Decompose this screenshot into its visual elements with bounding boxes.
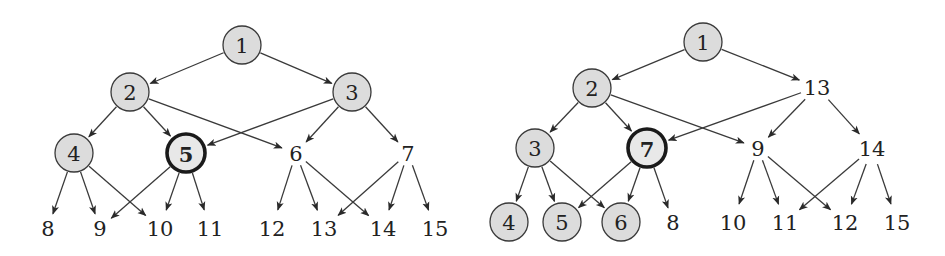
node-11: 11 xyxy=(197,217,224,241)
node-5: 5 xyxy=(167,134,205,172)
node-14: 14 xyxy=(370,217,397,241)
edge-arrow xyxy=(550,102,578,132)
node-9: 9 xyxy=(751,137,764,161)
node-13: 13 xyxy=(311,217,338,241)
node-6: 6 xyxy=(289,142,302,166)
node-label: 5 xyxy=(179,142,194,167)
node-label: 8 xyxy=(666,211,679,235)
graph-left: 123456789101112131415 xyxy=(41,26,448,241)
node-12: 12 xyxy=(832,211,859,235)
edge-arrow xyxy=(828,100,859,134)
node-2: 2 xyxy=(111,73,149,111)
node-label: 2 xyxy=(123,81,136,105)
node-14: 14 xyxy=(859,137,886,161)
node-5: 5 xyxy=(543,203,581,241)
node-13: 13 xyxy=(804,76,831,100)
node-3: 3 xyxy=(516,129,554,167)
edge-arrow xyxy=(389,165,404,210)
diagram-canvas: 123456789101112131415 121337914456810111… xyxy=(0,0,945,256)
edge-arrow xyxy=(208,99,334,145)
node-15: 15 xyxy=(422,217,449,241)
edge-arrow xyxy=(762,160,778,204)
edge-arrow xyxy=(149,99,282,148)
node-label: 1 xyxy=(696,31,709,55)
edge-arrow xyxy=(799,159,859,210)
node-11: 11 xyxy=(772,211,799,235)
edge-arrow xyxy=(612,50,684,80)
edge-arrow xyxy=(144,107,171,136)
node-label: 3 xyxy=(345,81,358,105)
node-label: 7 xyxy=(401,142,414,166)
edge-arrow xyxy=(542,167,555,202)
edge-arrow xyxy=(53,172,68,214)
edge-arrow xyxy=(192,173,204,210)
edge-arrow xyxy=(412,165,428,210)
graph-right: 121337914456810111215 xyxy=(490,23,910,241)
node-9: 9 xyxy=(93,217,106,241)
edge-arrow xyxy=(669,93,801,140)
edges xyxy=(516,49,891,209)
node-6: 6 xyxy=(602,203,640,241)
edge-arrow xyxy=(366,107,398,142)
edge-arrow xyxy=(654,168,668,208)
node-7: 7 xyxy=(401,142,414,166)
edge-arrow xyxy=(89,166,146,215)
edge-arrow xyxy=(166,173,179,210)
node-4: 4 xyxy=(55,134,93,172)
edge-arrow xyxy=(306,161,369,215)
node-7: 7 xyxy=(628,129,666,167)
node-10: 10 xyxy=(720,211,747,235)
node-label: 10 xyxy=(147,217,174,241)
edge-arrow xyxy=(877,164,890,204)
node-label: 13 xyxy=(311,217,338,241)
node-label: 14 xyxy=(859,137,886,161)
node-label: 14 xyxy=(370,217,397,241)
node-15: 15 xyxy=(884,211,911,235)
edge-arrow xyxy=(89,107,117,137)
node-12: 12 xyxy=(259,217,286,241)
node-label: 4 xyxy=(502,211,515,235)
node-label: 15 xyxy=(422,217,449,241)
edge-arrow xyxy=(550,161,604,208)
node-label: 6 xyxy=(289,142,302,166)
node-label: 12 xyxy=(832,211,859,235)
node-label: 13 xyxy=(804,76,831,100)
node-label: 1 xyxy=(235,34,248,58)
node-label: 11 xyxy=(772,211,799,235)
node-label: 2 xyxy=(585,77,598,101)
node-label: 12 xyxy=(259,217,286,241)
node-1: 1 xyxy=(223,26,261,64)
edge-arrow xyxy=(852,164,867,204)
edge-arrow xyxy=(768,99,805,137)
node-label: 9 xyxy=(751,137,764,161)
node-8: 8 xyxy=(666,211,679,235)
node-3: 3 xyxy=(333,73,371,111)
node-10: 10 xyxy=(147,217,174,241)
node-label: 8 xyxy=(41,217,54,241)
node-label: 9 xyxy=(93,217,106,241)
edge-arrow xyxy=(278,165,292,210)
edge-arrow xyxy=(606,103,632,131)
node-label: 6 xyxy=(614,211,627,235)
edge-arrow xyxy=(150,53,223,84)
node-label: 11 xyxy=(197,217,224,241)
node-label: 4 xyxy=(67,142,80,166)
edge-arrow xyxy=(306,107,338,142)
node-label: 7 xyxy=(640,137,655,162)
node-8: 8 xyxy=(41,217,54,241)
node-label: 3 xyxy=(528,137,541,161)
node-1: 1 xyxy=(684,23,722,61)
edge-arrow xyxy=(81,172,96,214)
node-label: 5 xyxy=(555,211,568,235)
node-2: 2 xyxy=(573,69,611,107)
node-4: 4 xyxy=(490,203,528,241)
edge-arrow xyxy=(628,168,640,201)
edge-arrow xyxy=(579,162,632,208)
edges xyxy=(53,53,429,218)
node-label: 15 xyxy=(884,211,911,235)
edge-arrow xyxy=(260,53,331,83)
node-label: 10 xyxy=(720,211,747,235)
edge-arrow xyxy=(516,167,528,201)
edge-arrow xyxy=(301,165,318,210)
edge-arrow xyxy=(722,49,800,80)
